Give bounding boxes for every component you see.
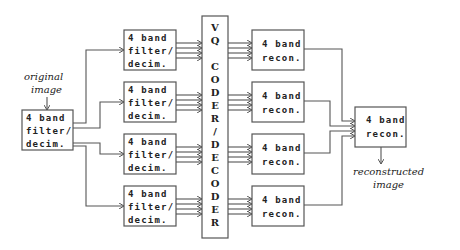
- filter-box-3: 4 band filter/ decim.: [124, 134, 176, 174]
- svg-text:4 band: 4 band: [366, 115, 406, 125]
- output-label: reconstructed image: [353, 166, 424, 190]
- svg-text:reconstructed: reconstructed: [353, 166, 424, 177]
- svg-text:4 band: 4 band: [128, 189, 168, 199]
- svg-text:filter/: filter/: [128, 202, 174, 212]
- svg-text:image: image: [373, 179, 404, 190]
- svg-text:C: C: [211, 61, 219, 72]
- svg-text:/: /: [213, 126, 217, 137]
- filter-box-2: 4 band filter/ decim.: [124, 82, 176, 122]
- svg-text:R: R: [211, 217, 220, 228]
- svg-text:D: D: [211, 191, 220, 202]
- final-recon-box: 4 band recon.: [355, 107, 406, 147]
- svg-text:decim.: decim.: [128, 163, 168, 173]
- svg-text:decim.: decim.: [128, 111, 168, 121]
- svg-text:O: O: [211, 178, 220, 189]
- vq-subband-diagram: original image 4 band filter/ decim. 4 b…: [0, 0, 460, 250]
- svg-text:4 band: 4 band: [26, 113, 66, 123]
- svg-text:D: D: [211, 139, 220, 150]
- svg-text:E: E: [211, 100, 219, 111]
- svg-text:4 band: 4 band: [262, 143, 302, 153]
- recon-box-1: 4 band recon.: [252, 30, 304, 70]
- svg-text:D: D: [211, 87, 220, 98]
- input-label: original image: [24, 71, 63, 95]
- svg-text:4 band: 4 band: [128, 85, 168, 95]
- filter-to-coder-wires: [176, 43, 202, 214]
- recon-box-4: 4 band recon.: [252, 186, 304, 226]
- svg-text:4 band: 4 band: [128, 33, 168, 43]
- svg-text:C: C: [211, 165, 219, 176]
- svg-text:4 band: 4 band: [262, 91, 302, 101]
- svg-text:filter/: filter/: [26, 126, 72, 136]
- svg-text:E: E: [211, 152, 219, 163]
- filter-box-4: 4 band filter/ decim.: [124, 186, 176, 226]
- svg-text:Q: Q: [211, 35, 220, 46]
- first-stage-filter-box: 4 band filter/ decim.: [22, 110, 73, 150]
- svg-text:recon.: recon.: [262, 53, 302, 63]
- svg-text:decim.: decim.: [128, 59, 168, 69]
- svg-text:decim.: decim.: [128, 215, 168, 225]
- svg-text:recon.: recon.: [262, 157, 302, 167]
- recon-box-2: 4 band recon.: [252, 82, 304, 122]
- svg-text:recon.: recon.: [262, 105, 302, 115]
- svg-text:4 band: 4 band: [262, 195, 302, 205]
- svg-text:filter/: filter/: [128, 150, 174, 160]
- recon-box-3: 4 band recon.: [252, 134, 304, 174]
- svg-text:recon.: recon.: [366, 129, 406, 139]
- svg-text:O: O: [211, 74, 220, 85]
- svg-text:decim.: decim.: [26, 139, 66, 149]
- split-wires: [73, 50, 124, 206]
- svg-text:recon.: recon.: [262, 209, 302, 219]
- svg-text:V: V: [210, 22, 219, 33]
- svg-text:filter/: filter/: [128, 46, 174, 56]
- vq-coder-decoder-box: V Q C O D E R / D E C O D E R: [202, 16, 228, 238]
- filter-box-1: 4 band filter/ decim.: [124, 30, 176, 70]
- svg-text:E: E: [211, 204, 219, 215]
- svg-text:4 band: 4 band: [128, 137, 168, 147]
- svg-text:original: original: [24, 71, 63, 82]
- coder-to-recon-wires: [228, 43, 252, 214]
- svg-text:filter/: filter/: [128, 98, 174, 108]
- svg-text:R: R: [211, 113, 220, 124]
- svg-text:image: image: [31, 84, 62, 95]
- merge-wires: [304, 49, 355, 205]
- svg-text:4 band: 4 band: [262, 39, 302, 49]
